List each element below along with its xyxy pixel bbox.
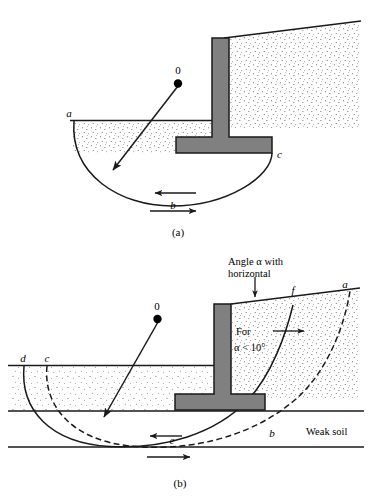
label-center-b: 0 [154,300,160,312]
label-center-a: 0 [175,64,181,76]
weak-soil-label-b: Weak soil [306,426,348,437]
angle-note-line2-b: horizontal [228,268,271,279]
panel-a: 0 a c b (a) [66,21,361,239]
for-note-line1-b: For [236,326,251,337]
figure-root: 0 a c b (a) [0,0,372,497]
label-point-b-a: b [170,199,176,211]
center-point-dot-b [153,315,161,323]
panel-b: 0 d c f a b e Angle α with horizontal Fo… [8,256,364,490]
caption-panel-a: (a) [172,226,185,239]
label-point-c-b: c [45,352,50,364]
label-point-d-b: d [20,352,26,364]
for-note-line2-b: α < 10° [234,342,265,353]
label-point-e-b: e [170,434,175,446]
label-point-a-b: a [342,278,348,290]
label-point-c-a: c [277,148,282,160]
label-point-b-b: b [269,427,275,439]
angle-note-line1-b: Angle α with [228,256,284,267]
caption-panel-b: (b) [174,477,187,490]
label-point-f-b: f [291,284,296,296]
retaining-wall-figure: 0 a c b (a) [0,0,372,497]
center-point-dot-a [174,79,182,87]
panel-a-backfill-soil [224,21,361,128]
label-point-a-a: a [66,107,72,119]
backfill-stipple-a [224,22,360,128]
